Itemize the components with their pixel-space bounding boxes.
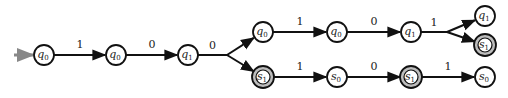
- state-node: q0: [106, 45, 126, 65]
- state-node: q0: [327, 22, 347, 42]
- accepting-state-node: s1: [474, 34, 496, 56]
- edge-label: 1: [445, 60, 452, 73]
- accepting-state-node: s1: [252, 66, 274, 88]
- transition-edge-branch: [447, 32, 475, 41]
- state-node: s0: [475, 67, 495, 87]
- edge-label: 1: [297, 15, 304, 28]
- state-node: q1: [401, 22, 421, 42]
- diagram-canvas: 100101101 q0q0q1q0s1q0s0q1s1q1s1s0: [0, 0, 508, 98]
- edge-label: 1: [297, 60, 304, 73]
- edge-label: 0: [149, 38, 156, 51]
- accepting-state-node: s1: [400, 66, 422, 88]
- edge-label: 0: [209, 39, 216, 52]
- automaton-diagram: 100101101 q0q0q1q0s1q0s0q1s1q1s1s0: [0, 0, 508, 98]
- edge-label: 1: [77, 38, 84, 51]
- state-node: s0: [327, 67, 347, 87]
- state-node: q1: [178, 45, 198, 65]
- transition-edge-branch: [227, 55, 254, 71]
- state-node: q1: [475, 6, 495, 26]
- transition-edge-branch: [227, 38, 254, 55]
- state-node: q0: [253, 22, 273, 42]
- state-node: q0: [14, 45, 54, 65]
- transition-edge-branch: [447, 20, 475, 32]
- edge-label: 0: [371, 15, 378, 28]
- edge-label: 0: [371, 60, 378, 73]
- nodes-layer: q0q0q1q0s1q0s0q1s1q1s1s0: [14, 6, 496, 88]
- edge-label: 1: [431, 16, 438, 29]
